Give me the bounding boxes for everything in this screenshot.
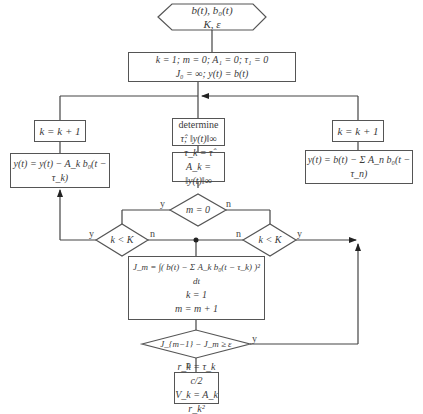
- left-increment-box: k = k + 1: [34, 120, 86, 142]
- result-range: r_k = τ_k c/2: [175, 360, 218, 388]
- j-calc-increment-m: m = m + 1: [175, 302, 218, 316]
- init-line2: J₀ = ∞; y(t) = b(t): [176, 67, 249, 81]
- m-yes-label: y: [160, 198, 165, 209]
- right-update-box: y(t) = b(t) − Σ A_n b₀(t − τ_n): [305, 150, 413, 184]
- start-params: K, ε: [203, 17, 220, 31]
- left-update-text: y(t) = y(t) − A_k b₀(t − τ_k): [11, 157, 109, 185]
- init-line1: k = 1; m = 0; A₁ = 0; τ₁ = 0: [156, 53, 269, 67]
- determine-values: τ̂; ‖y(t)‖∞: [180, 132, 216, 146]
- j-calc-box: J_m = ∫( b(t) − Σ A_k b₀(t − τ_k) )² dt …: [128, 256, 265, 320]
- right-no-label: n: [236, 228, 241, 239]
- j-no-label: n: [186, 359, 191, 370]
- right-yes-label: y: [297, 228, 302, 239]
- right-update-text: y(t) = b(t) − Σ A_n b₀(t − τ_n): [306, 153, 412, 181]
- m-no-label: n: [226, 198, 231, 209]
- j-check-text: J_{m−1} − J_m ≥ ε: [160, 337, 231, 351]
- j-calc-reset-k: k = 1: [186, 288, 207, 302]
- left-k-check-diamond: k < K: [102, 233, 142, 247]
- determine-title: determine: [179, 118, 219, 132]
- left-k-check-text: k < K: [111, 233, 134, 247]
- right-increment-box: k = k + 1: [332, 120, 384, 142]
- init-box: k = 1; m = 0; A₁ = 0; τ₁ = 0 J₀ = ∞; y(t…: [128, 52, 296, 82]
- result-volume: V_k = A_k r_k²: [175, 388, 218, 414]
- left-yes-label: y: [89, 228, 94, 239]
- m-check-diamond: m = 0: [178, 203, 218, 217]
- j-calc-formula: J_m = ∫( b(t) − Σ A_k b₀(t − τ_k) )² dt: [129, 260, 264, 288]
- j-check-diamond: J_{m−1} − J_m ≥ ε: [156, 337, 236, 351]
- assign-box: τ_k = τ̂ A_k = ‖y(t)‖∞: [172, 152, 225, 182]
- left-update-box: y(t) = y(t) − A_k b₀(t − τ_k): [10, 153, 110, 188]
- right-increment-text: k = k + 1: [337, 124, 378, 138]
- right-k-check-text: k < K: [259, 233, 282, 247]
- left-no-label: n: [150, 228, 155, 239]
- assign-tau: τ_k = τ̂: [184, 146, 212, 160]
- m-check-text: m = 0: [186, 203, 210, 217]
- determine-box: determine τ̂; ‖y(t)‖∞: [172, 118, 225, 146]
- result-box: r_k = τ_k c/2 V_k = A_k r_k²: [174, 372, 219, 404]
- left-increment-text: k = k + 1: [39, 124, 80, 138]
- start-inputs: b(t), b₀(t): [191, 3, 232, 17]
- right-k-check-diamond: k < K: [250, 233, 290, 247]
- j-yes-label: y: [252, 333, 257, 344]
- start-node: b(t), b₀(t) K, ε: [158, 4, 266, 30]
- assign-amplitude: A_k = ‖y(t)‖∞: [173, 160, 224, 188]
